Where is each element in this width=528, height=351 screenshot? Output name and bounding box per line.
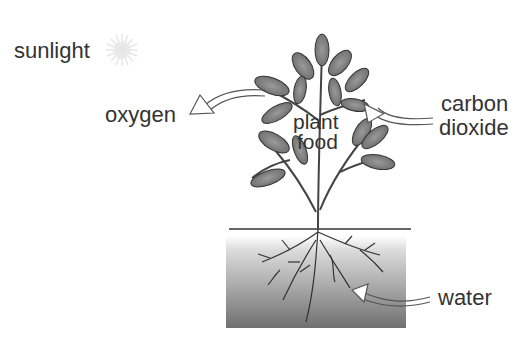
oxygen-arrow — [190, 90, 265, 114]
sunlight-label: sunlight — [14, 40, 90, 62]
oxygen-label: oxygen — [105, 104, 176, 126]
plant-food-label-line2: food — [297, 132, 338, 152]
plant-food-label-line1: plant — [293, 112, 339, 132]
carbon-dioxide-arrow — [359, 98, 433, 125]
water-label: water — [438, 287, 492, 309]
sun-icon — [106, 34, 138, 66]
carbon-dioxide-label-line1: carbon — [441, 93, 508, 115]
carbon-dioxide-label-line2: dioxide — [439, 117, 509, 139]
